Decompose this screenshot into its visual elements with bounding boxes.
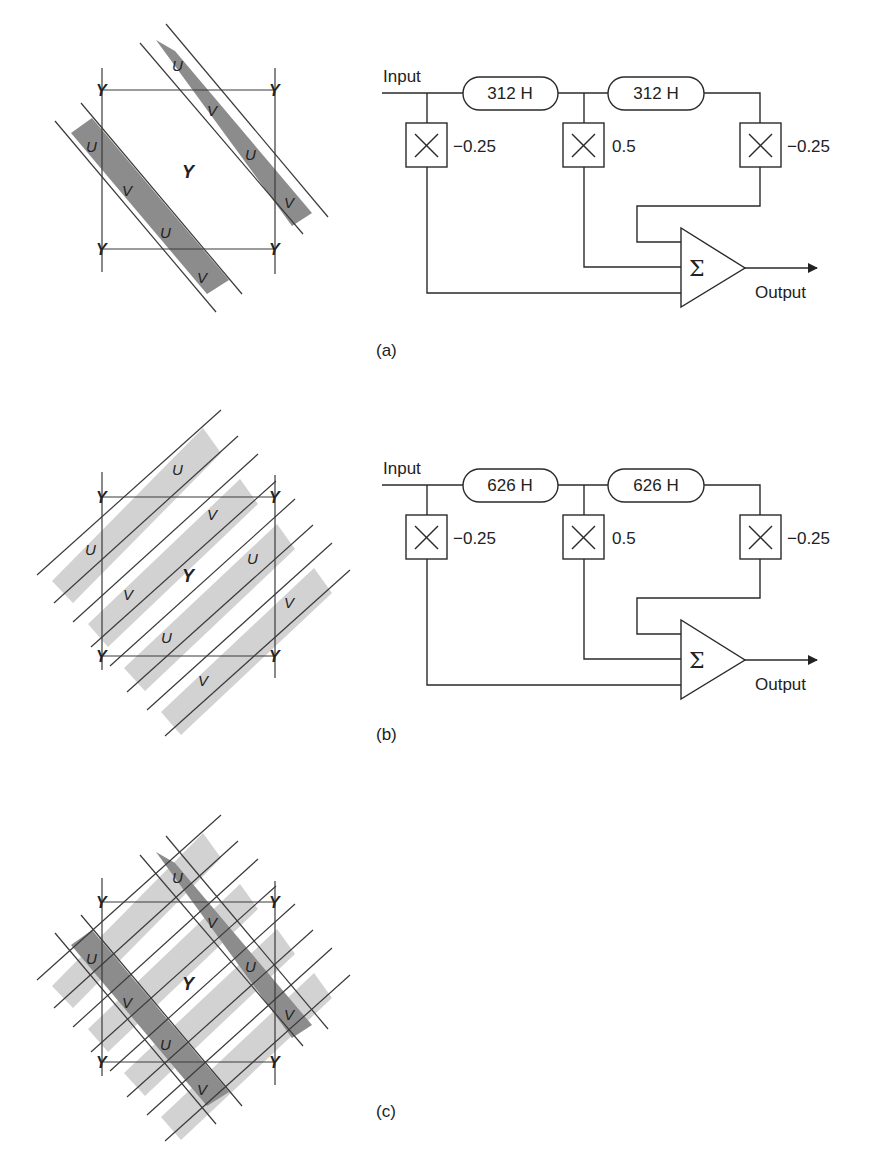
- coefficient-1: −0.25: [453, 137, 496, 156]
- corner-y-label: Y: [96, 489, 108, 506]
- sigma-icon: Σ: [689, 256, 705, 281]
- coefficient-1: −0.25: [453, 529, 496, 548]
- delay-label-1: 626 H: [487, 476, 532, 495]
- corner-y-label: Y: [269, 894, 281, 911]
- figure-canvas: Y Y Y Y Y U V U V U V U V Input 312 H 31…: [0, 0, 878, 1162]
- band-label: U: [86, 138, 97, 155]
- output-label: Output: [755, 283, 806, 302]
- sigma-icon: Σ: [689, 648, 705, 673]
- input-label: Input: [383, 459, 421, 478]
- caption-c: (c): [376, 1102, 396, 1121]
- multiplier-2: [563, 123, 604, 167]
- center-y-label: Y: [182, 162, 196, 182]
- sum-input-wire: [427, 559, 681, 685]
- sum-input-wire: [427, 167, 681, 293]
- light-band: [52, 428, 221, 603]
- band-label: U: [245, 146, 256, 163]
- band-label: U: [160, 1036, 171, 1053]
- delay-label-2: 626 H: [633, 476, 678, 495]
- sum-input-wire: [584, 167, 681, 267]
- band-label: U: [86, 950, 97, 967]
- input-label: Input: [383, 67, 421, 86]
- band-edge-line: [81, 103, 242, 294]
- corner-y-label: Y: [96, 241, 108, 258]
- sum-input-wire: [637, 559, 760, 634]
- light-band: [88, 479, 258, 647]
- sum-input-wire: [637, 167, 760, 242]
- corner-y-label: Y: [269, 648, 281, 665]
- coefficient-3: −0.25: [787, 529, 830, 548]
- block-diagram-b: Input 626 H 626 H −0.25 0.5 −0.25: [382, 459, 830, 699]
- delay-label-1: 312 H: [487, 84, 532, 103]
- band-label: U: [161, 629, 172, 646]
- multiplier-3: [740, 123, 781, 167]
- corner-y-label: Y: [96, 648, 108, 665]
- tap-wire: [704, 485, 760, 515]
- multiplier-1: [406, 123, 447, 167]
- caption-b: (b): [376, 725, 397, 744]
- delay-label-2: 312 H: [633, 84, 678, 103]
- coefficient-2: 0.5: [612, 137, 636, 156]
- center-y-label: Y: [182, 566, 196, 586]
- pattern-b: Y Y Y Y Y U U V V U U V V: [37, 410, 350, 736]
- corner-y-label: Y: [269, 82, 281, 99]
- multiplier-3: [740, 515, 781, 559]
- band-edge-line: [166, 24, 328, 217]
- band-label: U: [85, 541, 96, 558]
- band-label: U: [245, 958, 256, 975]
- multiplier-2: [563, 515, 604, 559]
- center-y-label: Y: [182, 974, 196, 994]
- band-edge-line: [55, 121, 216, 312]
- band-edge-line: [165, 570, 350, 736]
- tap-wire: [704, 93, 760, 123]
- corner-y-label: Y: [269, 1054, 281, 1071]
- coefficient-3: −0.25: [787, 137, 830, 156]
- corner-y-label: Y: [269, 241, 281, 258]
- corner-y-label: Y: [96, 894, 108, 911]
- multiplier-1: [406, 515, 447, 559]
- band-label: U: [172, 57, 183, 74]
- sum-input-wire: [584, 559, 681, 659]
- band-label: U: [172, 461, 183, 478]
- pattern-c: Y Y Y Y Y U V U V U V U V: [37, 815, 350, 1141]
- pattern-a: Y Y Y Y Y U V U V U V U V: [55, 24, 328, 312]
- block-diagram-a: Input 312 H 312 H −0.25 0.5 −0.25: [382, 67, 830, 307]
- corner-y-label: Y: [96, 82, 108, 99]
- output-label: Output: [755, 675, 806, 694]
- coefficient-2: 0.5: [612, 529, 636, 548]
- band-label: U: [160, 224, 171, 241]
- caption-a: (a): [376, 341, 397, 360]
- band-label: U: [247, 550, 258, 567]
- corner-y-label: Y: [96, 1054, 108, 1071]
- band-label: U: [172, 869, 183, 886]
- corner-y-label: Y: [269, 489, 281, 506]
